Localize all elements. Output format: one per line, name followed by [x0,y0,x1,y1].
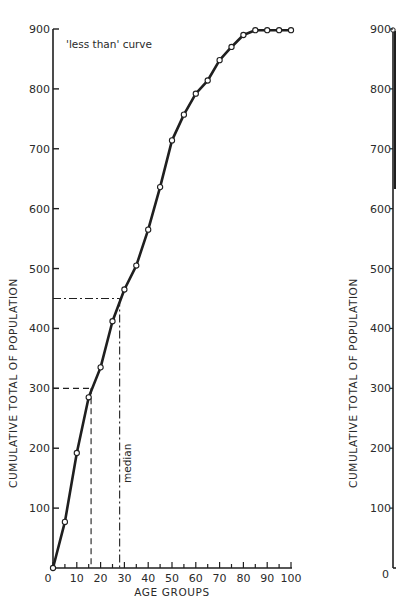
data-point-marker [158,185,163,190]
data-point-marker [110,319,115,324]
right-y-tick-label: 700 [370,143,391,156]
data-point-marker [86,395,91,400]
data-point-marker [193,91,198,96]
data-point-marker [265,28,270,33]
y-tick-label: 800 [29,83,50,96]
y-tick-label: 700 [29,143,50,156]
right-y-tick-label: 600 [370,203,391,216]
data-point-marker [288,28,293,33]
data-point-marker [62,519,67,524]
right-y-tick-label: 400 [370,322,391,335]
data-point-marker [169,138,174,143]
right-y-tick-label: 200 [370,442,391,455]
right-y-tick-label: 500 [370,263,391,276]
right-axes [391,28,396,568]
data-point-marker [74,450,79,455]
data-point-marker [229,44,234,49]
y-tick-label: 600 [29,203,50,216]
left-y-ticks: 100200300400500600700800900 [29,23,59,515]
data-point-marker [181,112,186,117]
right-y-axis-title: CUMULATIVE TOTAL OF POPULATION [347,278,359,488]
y-tick-label: 100 [29,502,50,515]
x-tick-label: 70 [213,572,227,585]
right-chart-partial: 0100200300400500600700800900 CUMULATIVE … [347,23,396,581]
data-point-marker [50,565,55,570]
right-y-tick-label: 800 [370,83,391,96]
left-chart: 100200300400500600700800900 010203040506… [7,23,302,598]
y-tick-label: 300 [29,382,50,395]
data-point-marker [277,28,282,33]
right-y-tick-label: 900 [370,23,391,36]
y-tick-label: 500 [29,263,50,276]
x-tick-label: 30 [117,572,131,585]
x-tick-label: 80 [236,572,250,585]
data-point-marker [217,58,222,63]
x-tick-label: 20 [94,572,108,585]
data-point-marker [253,28,258,33]
y-tick-label: 200 [29,442,50,455]
right-y-ticks: 0100200300400500600700800900 [370,23,393,581]
data-point-marker [134,263,139,268]
y-axis-title: CUMULATIVE TOTAL OF POPULATION [7,278,19,488]
x-tick-label: 10 [70,572,84,585]
less-than-curve [50,28,293,571]
median-label: median [121,444,133,483]
x-tick-label: 100 [281,572,302,585]
right-y-tick-label: 100 [370,502,391,515]
y-tick-label: 900 [29,23,50,36]
x-tick-label: 60 [189,572,203,585]
data-point-marker [205,78,210,83]
x-tick-label: 90 [260,572,274,585]
right-y-tick-label: 300 [370,382,391,395]
right-y-tick-label: 0 [382,568,389,581]
data-point-marker [241,32,246,37]
data-point-marker [98,365,103,370]
cumulative-frequency-figure: 100200300400500600700800900 010203040506… [0,0,396,602]
curve-line [53,30,291,568]
curve-annotation: 'less than' curve [66,38,152,50]
x-tick-label: 0 [45,572,52,585]
left-x-ticks: 0102030405060708090100 [45,562,302,585]
x-axis-title: AGE GROUPS [134,586,210,598]
data-point-marker [146,227,151,232]
data-point-marker [122,287,127,292]
x-tick-label: 50 [165,572,179,585]
y-tick-label: 400 [29,322,50,335]
x-tick-label: 40 [141,572,155,585]
